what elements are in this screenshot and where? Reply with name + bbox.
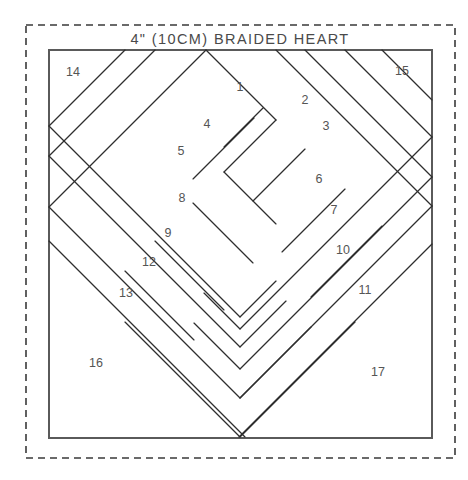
piece-label-8: 8	[179, 191, 186, 205]
piece-label-13: 13	[119, 286, 133, 300]
piece-label-3: 3	[323, 119, 330, 133]
braided-heart-diagram: 4" (10CM) BRAIDED HEART	[0, 0, 468, 480]
pattern-page: 4" (10CM) BRAIDED HEART	[0, 0, 468, 480]
piece-label-14: 14	[66, 65, 80, 79]
piece-label-6: 6	[316, 172, 323, 186]
piece-label-2: 2	[302, 93, 309, 107]
piece-label-12: 12	[142, 255, 156, 269]
piece-label-4: 4	[204, 117, 211, 131]
piece-label-15: 15	[395, 64, 409, 78]
piece-label-17: 17	[371, 365, 385, 379]
piece-label-5: 5	[178, 144, 185, 158]
piece-label-11: 11	[359, 283, 372, 297]
piece-label-9: 9	[165, 226, 172, 240]
piece-label-7: 7	[331, 203, 338, 217]
block-outline	[49, 50, 432, 438]
page-title: 4" (10CM) BRAIDED HEART	[130, 31, 349, 47]
piece-label-1: 1	[237, 80, 244, 94]
piece-label-10: 10	[336, 243, 350, 257]
piece-label-16: 16	[89, 356, 103, 370]
